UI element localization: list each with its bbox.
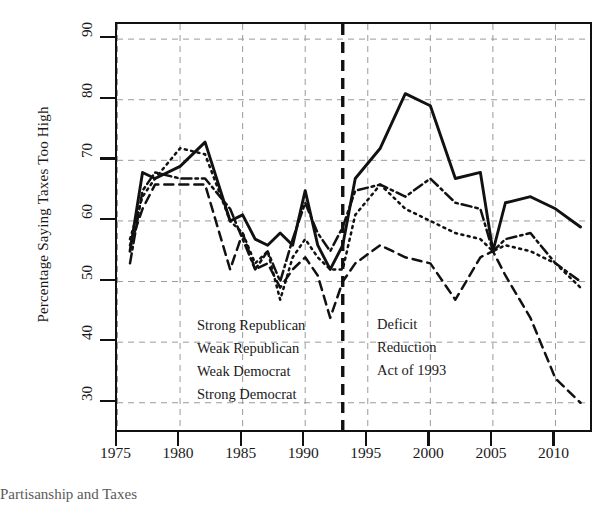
y-axis-tick-label: 40 xyxy=(70,324,104,341)
y-axis-tick-mark xyxy=(100,339,116,341)
annotation-line-2: Reduction xyxy=(377,336,446,359)
legend-label: Weak Democrat xyxy=(197,360,290,383)
x-axis-tick-label: 1985 xyxy=(211,444,271,462)
figure-caption: Partisanship and Taxes xyxy=(0,486,137,505)
annotation-line-1: Deficit xyxy=(377,313,446,336)
y-axis-tick-mark xyxy=(100,400,116,402)
y-axis-tick-label: 30 xyxy=(70,385,104,402)
y-axis-tick-mark xyxy=(100,157,116,159)
x-axis-tick-label: 2010 xyxy=(523,444,583,462)
x-axis-tick-mark xyxy=(427,432,429,446)
plot-area: Strong Republican Weak Republican Weak D… xyxy=(115,22,592,432)
x-axis-tick-mark xyxy=(552,432,554,446)
x-axis-tick-mark xyxy=(490,432,492,446)
legend-label: Strong Democrat xyxy=(197,383,296,406)
series-line-weak-democrat xyxy=(130,148,580,300)
x-axis-tick-label: 1995 xyxy=(336,444,396,462)
y-axis-tick-label: 90 xyxy=(70,21,104,38)
y-axis-tick-mark xyxy=(100,97,116,99)
y-axis-tick-mark xyxy=(100,279,116,281)
x-axis-tick-label: 2005 xyxy=(461,444,521,462)
y-axis-tick-label: 70 xyxy=(70,142,104,159)
legend-label: Weak Republican xyxy=(197,337,299,360)
y-axis-label: Percentage Saying Taxes Too High xyxy=(35,90,52,340)
annotation-line-3: Act of 1993 xyxy=(377,359,446,382)
y-axis-tick-label: 50 xyxy=(70,264,104,281)
x-axis-tick-label: 1990 xyxy=(273,444,333,462)
y-axis-tick-mark xyxy=(100,218,116,220)
x-axis-tick-mark xyxy=(302,432,304,446)
x-axis-tick-mark xyxy=(240,432,242,446)
y-axis-tick-label: 80 xyxy=(70,82,104,99)
x-axis-tick-mark xyxy=(177,432,179,446)
x-axis-tick-label: 1975 xyxy=(86,444,146,462)
x-axis-tick-label: 2000 xyxy=(398,444,458,462)
series-line-strong-republican xyxy=(130,94,580,270)
chart-canvas xyxy=(117,24,590,430)
y-axis-tick-label: 60 xyxy=(70,203,104,220)
x-axis-tick-mark xyxy=(115,432,117,446)
deficit-reduction-act-annotation: Deficit Reduction Act of 1993 xyxy=(377,313,446,382)
x-axis-tick-mark xyxy=(365,432,367,446)
legend-label: Strong Republican xyxy=(197,314,305,337)
chart-figure: Percentage Saying Taxes Too High 3040506… xyxy=(0,0,611,505)
x-axis-tick-label: 1980 xyxy=(148,444,208,462)
y-axis-tick-mark xyxy=(100,36,116,38)
